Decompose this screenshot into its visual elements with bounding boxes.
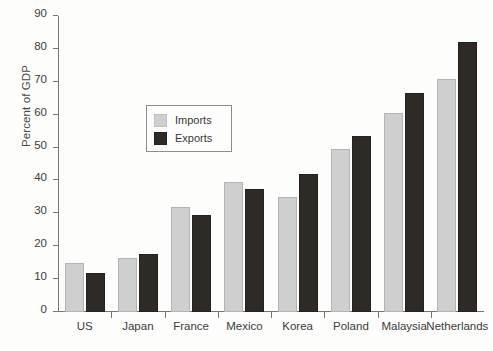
bar-exports-mexico bbox=[245, 189, 264, 312]
x-axis-tick bbox=[324, 312, 325, 318]
bar-imports-mexico bbox=[224, 182, 243, 312]
x-axis-tick bbox=[271, 312, 272, 318]
legend-item-imports: Imports bbox=[154, 113, 212, 127]
legend-label-exports: Exports bbox=[175, 132, 212, 144]
legend-item-exports: Exports bbox=[154, 131, 212, 145]
bar-imports-korea bbox=[278, 197, 297, 312]
plot-area: 0102030405060708090 Imports Exports bbox=[58, 16, 484, 312]
legend-swatch-imports-icon bbox=[154, 114, 167, 127]
bar-imports-japan bbox=[118, 258, 137, 312]
bar-exports-malaysia bbox=[405, 93, 424, 312]
bar-exports-poland bbox=[352, 136, 371, 312]
chart-legend: Imports Exports bbox=[146, 105, 232, 152]
y-axis-line bbox=[58, 16, 59, 312]
y-axis-tick: 90 bbox=[53, 15, 58, 16]
bar-exports-france bbox=[192, 215, 211, 312]
y-axis-tick: 10 bbox=[53, 278, 58, 279]
y-axis-tick: 30 bbox=[53, 212, 58, 213]
bar-exports-japan bbox=[139, 254, 158, 312]
y-axis-tick: 50 bbox=[53, 147, 58, 148]
bar-imports-us bbox=[65, 263, 84, 312]
x-axis-tick bbox=[218, 312, 219, 318]
y-axis-tick-label: 40 bbox=[34, 171, 47, 183]
bar-exports-us bbox=[86, 273, 105, 312]
y-axis-tick: 60 bbox=[53, 114, 58, 115]
bar-imports-netherlands bbox=[437, 79, 456, 313]
bar-imports-malaysia bbox=[384, 113, 403, 312]
bar-group bbox=[278, 16, 318, 312]
bar-group bbox=[118, 16, 158, 312]
bar-group bbox=[224, 16, 264, 312]
y-axis-tick: 20 bbox=[53, 245, 58, 246]
y-axis-tick: 70 bbox=[53, 81, 58, 82]
bar-group bbox=[171, 16, 211, 312]
bar-exports-korea bbox=[299, 174, 318, 312]
bar-group bbox=[384, 16, 424, 312]
x-axis-tick bbox=[378, 312, 379, 318]
y-axis-tick-label: 60 bbox=[34, 106, 47, 118]
y-axis-tick-label: 10 bbox=[34, 270, 47, 282]
y-axis-title: Percent of GDP bbox=[20, 36, 32, 176]
x-axis-tick bbox=[111, 312, 112, 318]
bar-chart: Percent of GDP 0102030405060708090 Impor… bbox=[0, 0, 493, 351]
y-axis-tick-label: 20 bbox=[34, 237, 47, 249]
bar-imports-france bbox=[171, 207, 190, 312]
y-axis-tick-label: 50 bbox=[34, 139, 47, 151]
y-axis-tick-label: 0 bbox=[41, 303, 47, 315]
bar-exports-netherlands bbox=[458, 42, 477, 312]
x-axis-tick bbox=[431, 312, 432, 318]
y-axis-tick: 80 bbox=[53, 48, 58, 49]
y-axis-tick-label: 80 bbox=[34, 40, 47, 52]
y-axis-tick: 0 bbox=[53, 311, 58, 312]
bar-group bbox=[437, 16, 477, 312]
bar-group bbox=[331, 16, 371, 312]
y-axis-tick: 40 bbox=[53, 179, 58, 180]
bar-group bbox=[65, 16, 105, 312]
y-axis-tick-label: 30 bbox=[34, 204, 47, 216]
x-axis-label: Netherlands bbox=[407, 320, 493, 332]
x-axis-tick bbox=[165, 312, 166, 318]
y-axis-tick-label: 70 bbox=[34, 73, 47, 85]
y-axis-tick-label: 90 bbox=[34, 7, 47, 19]
legend-label-imports: Imports bbox=[175, 114, 212, 126]
legend-swatch-exports-icon bbox=[154, 132, 167, 145]
bar-imports-poland bbox=[331, 149, 350, 312]
